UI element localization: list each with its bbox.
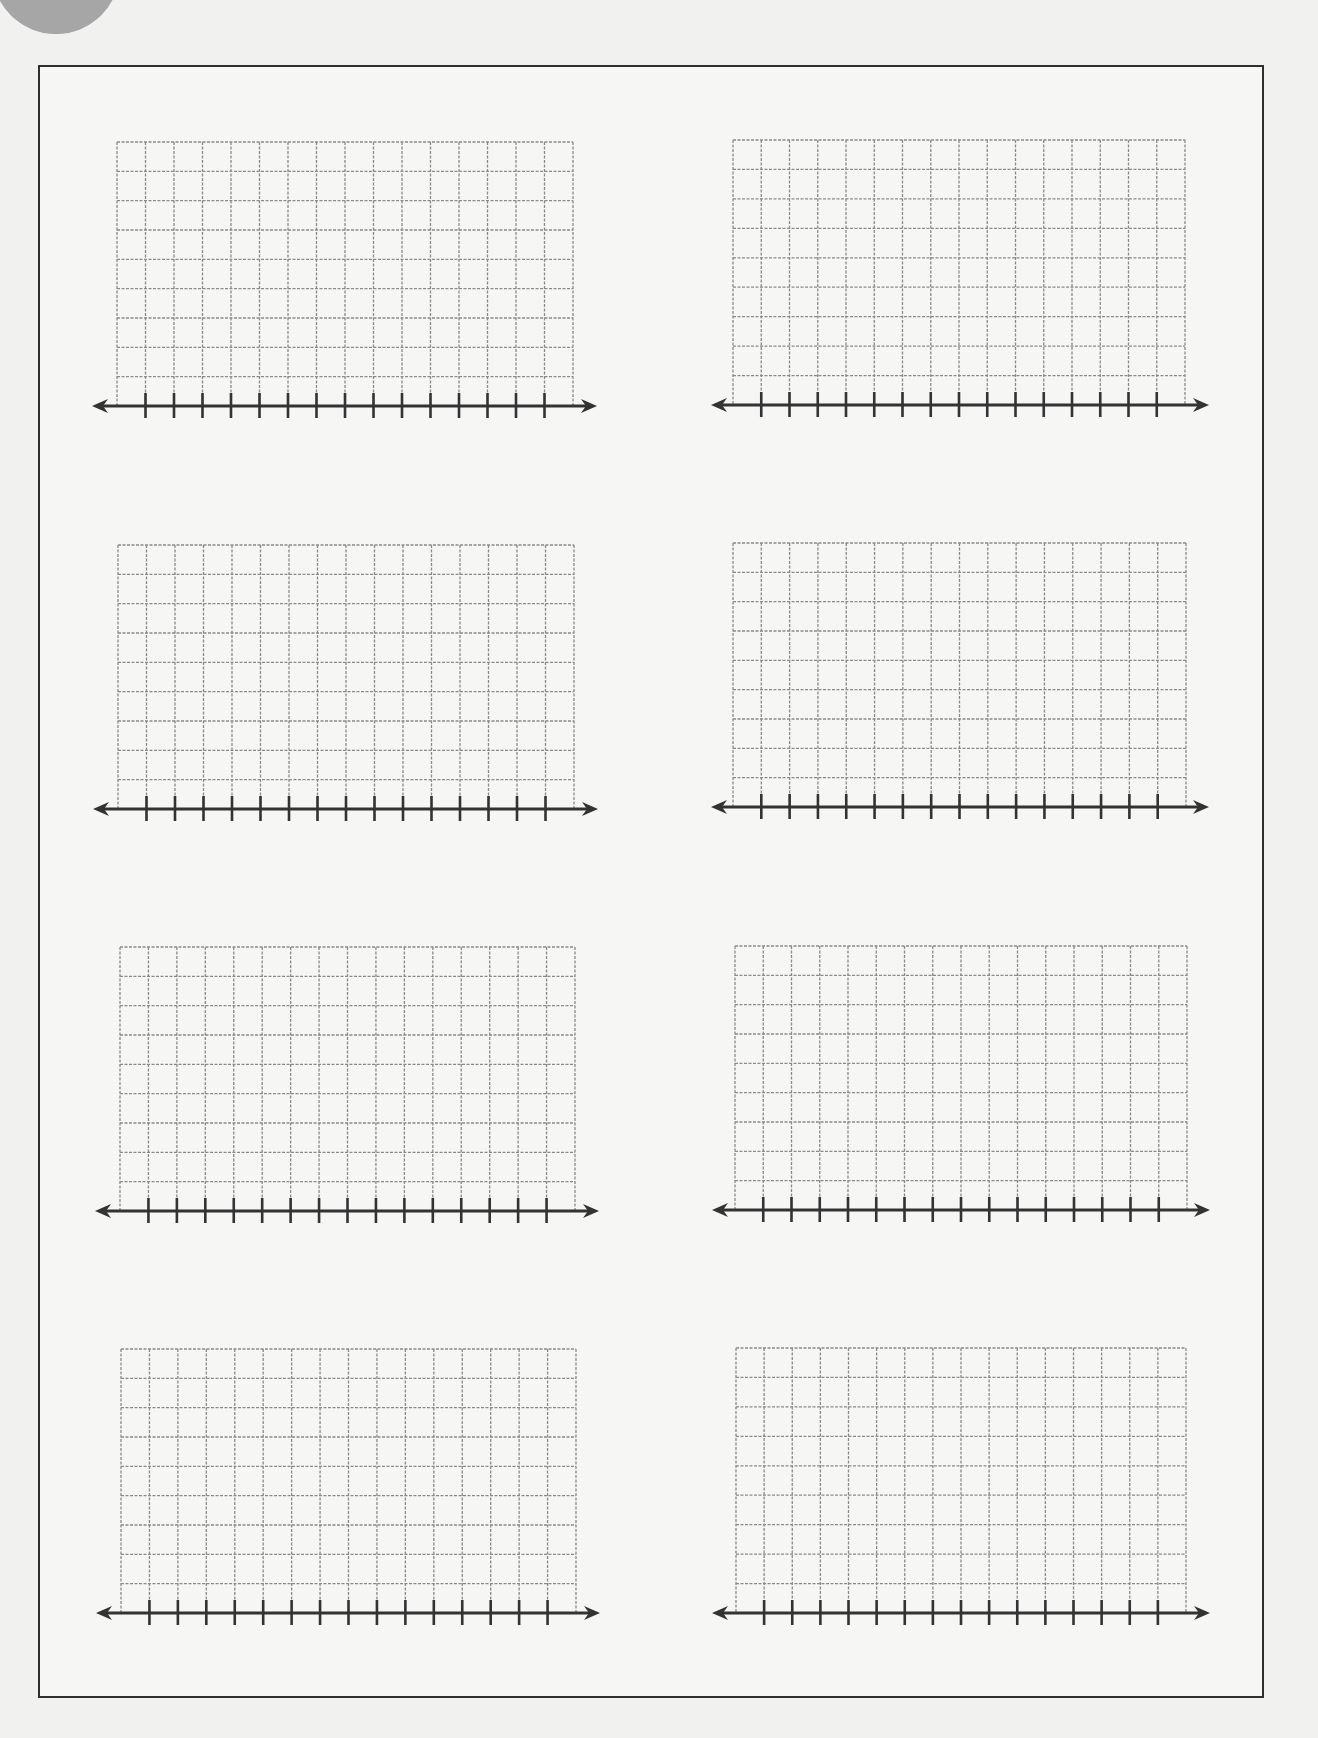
number-line	[711, 392, 1209, 417]
dot-plot-grid	[93, 1347, 603, 1633]
grid-panel-4	[708, 541, 1212, 827]
grid-panel-6	[709, 944, 1213, 1230]
grid-panel-5	[92, 945, 602, 1231]
dot-plot-grid	[708, 541, 1212, 827]
grid-panel-7	[93, 1347, 603, 1633]
number-line	[93, 796, 598, 821]
dot-plot-grid	[92, 945, 602, 1231]
dot-plot-grid	[708, 138, 1212, 425]
grid-lines	[733, 140, 1185, 405]
grid-lines	[733, 543, 1186, 807]
dot-plot-grid	[709, 944, 1213, 1230]
dot-plot-grid	[89, 140, 600, 426]
grid-lines	[735, 946, 1187, 1210]
dot-plot-grid	[709, 1346, 1213, 1633]
grid-panel-3	[90, 543, 601, 829]
number-line	[95, 1198, 599, 1223]
number-line	[712, 1600, 1210, 1625]
grid-lines	[121, 1349, 576, 1613]
number-line	[712, 1197, 1210, 1222]
grid-lines	[118, 545, 574, 809]
dot-plot-grid	[90, 543, 601, 829]
number-line	[711, 794, 1209, 819]
grid-lines	[117, 142, 573, 406]
number-line	[96, 1600, 600, 1625]
grid-lines	[736, 1348, 1186, 1613]
grid-panel-8	[709, 1346, 1213, 1633]
grid-panel-1	[89, 140, 600, 426]
number-line	[92, 393, 597, 418]
grid-panel-2	[708, 138, 1212, 425]
grid-lines	[120, 947, 575, 1211]
corner-page-tab	[0, 0, 120, 34]
